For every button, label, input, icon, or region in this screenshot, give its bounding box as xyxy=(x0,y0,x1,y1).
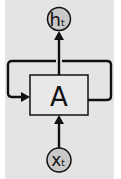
cell-label: A xyxy=(50,82,68,112)
rnn-diagram: A ht xt xyxy=(0,0,121,179)
output-subscript: t xyxy=(61,18,65,28)
input-subscript: t xyxy=(61,158,65,168)
